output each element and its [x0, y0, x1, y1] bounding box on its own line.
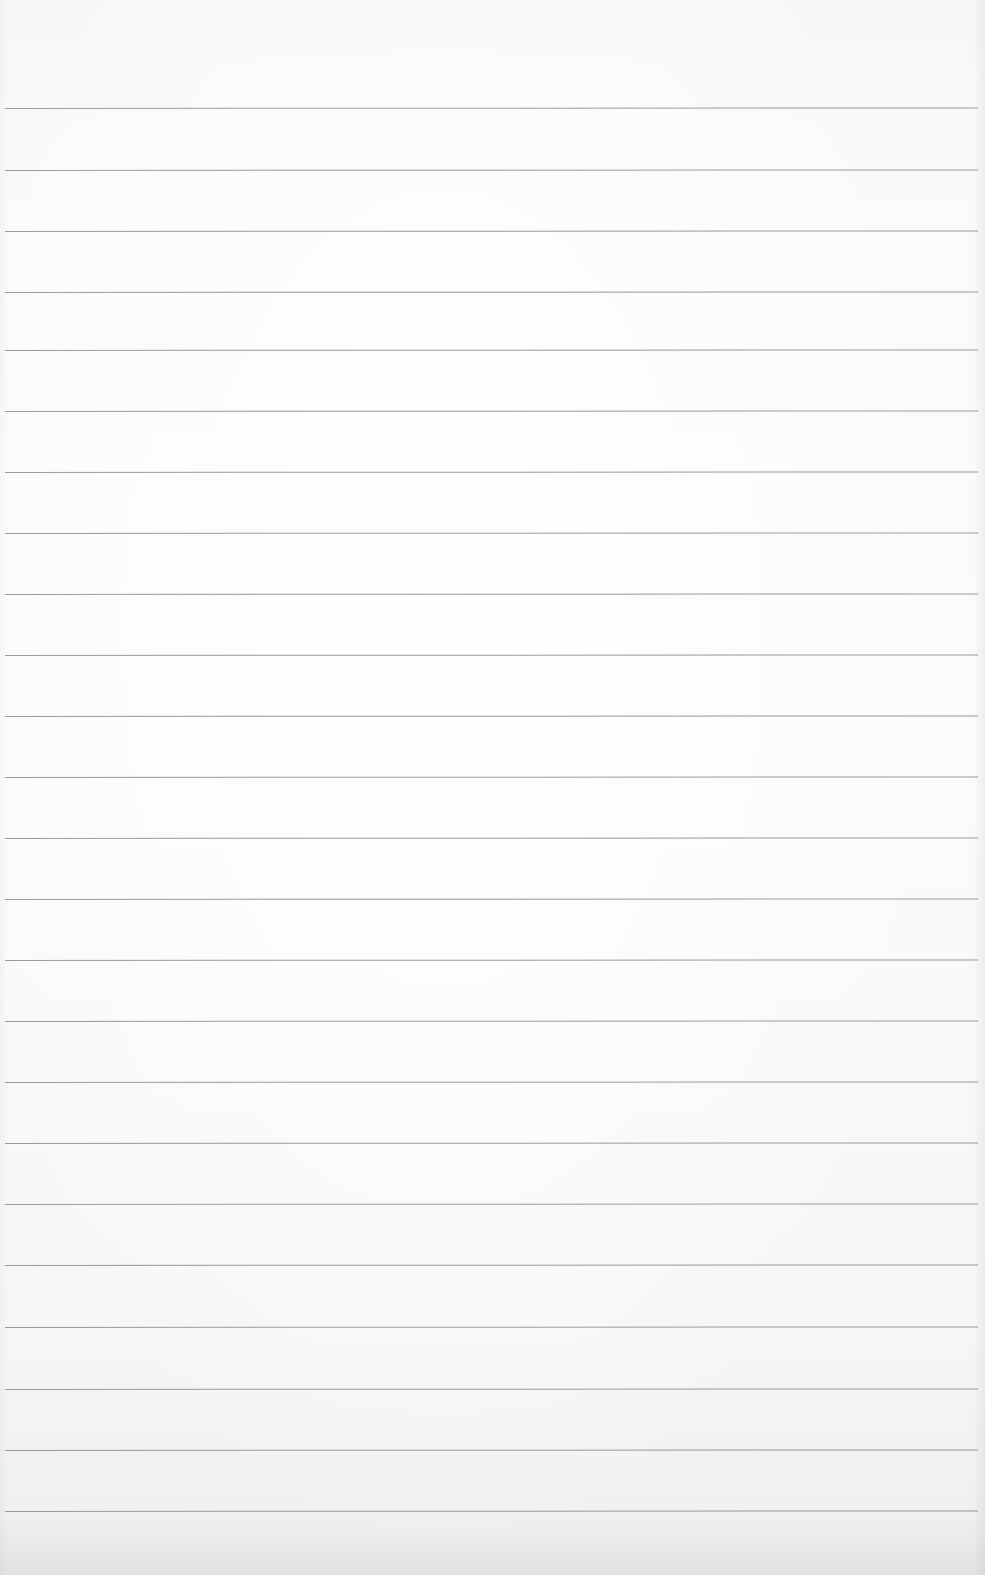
ruled-line: [5, 1081, 978, 1083]
ruled-line: [5, 1142, 978, 1144]
ruled-line: [5, 898, 978, 900]
ruled-line: [5, 107, 978, 109]
ruled-line: [5, 837, 978, 839]
ruled-line: [5, 1326, 978, 1328]
ruled-line: [5, 532, 978, 534]
ruled-line: [5, 959, 978, 961]
ruled-line: [5, 715, 978, 717]
ruled-line: [5, 471, 978, 473]
ruled-line: [5, 410, 978, 412]
lined-paper-sheet: [0, 0, 985, 1575]
ruled-line: [5, 593, 978, 595]
ruled-line: [5, 1203, 978, 1205]
ruled-line: [5, 291, 978, 293]
ruled-line: [5, 230, 978, 232]
ruled-line: [5, 1020, 978, 1022]
ruled-line: [5, 1510, 978, 1512]
ruled-line: [5, 1449, 978, 1451]
ruled-line: [5, 349, 978, 351]
ruled-line: [5, 169, 978, 171]
ruled-line: [5, 776, 978, 778]
ruled-line: [5, 654, 978, 656]
ruled-line: [5, 1388, 978, 1390]
ruled-line: [5, 1264, 978, 1266]
